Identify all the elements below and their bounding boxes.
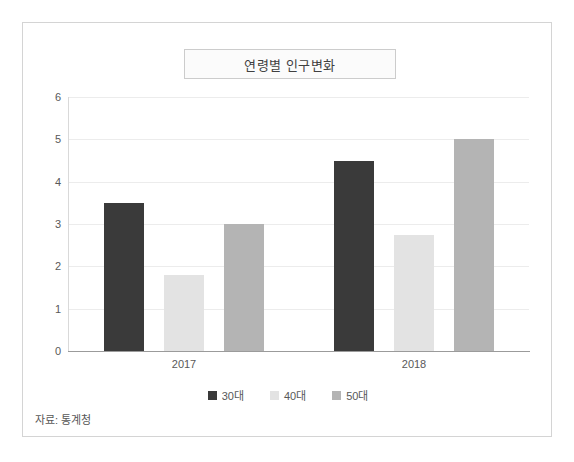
- y-axis-tick-label: 0: [31, 345, 61, 357]
- bar-40대-2018: [394, 235, 434, 351]
- bars-layer: [69, 97, 529, 351]
- y-axis-tick-label: 2: [31, 260, 61, 272]
- source-note: 자료: 통계청: [35, 411, 91, 427]
- x-axis-line: [68, 351, 530, 352]
- bar-40대-2017: [164, 275, 204, 351]
- legend-swatch-icon: [270, 391, 279, 400]
- y-axis-tick-label: 5: [31, 133, 61, 145]
- legend-item-50대: 50대: [332, 387, 368, 403]
- y-axis-tick-label: 6: [31, 91, 61, 103]
- page-title: 연령별 인구변화: [244, 55, 336, 74]
- y-axis-tick-label: 1: [31, 303, 61, 315]
- bar-30대-2018: [334, 161, 374, 352]
- y-axis-tick-label: 3: [31, 218, 61, 230]
- bar-50대-2018: [454, 139, 494, 351]
- chart-figure: 연령별 인구변화 0123456 20172018 30대40대50대 자료: …: [22, 22, 552, 437]
- legend-swatch-icon: [208, 391, 217, 400]
- legend-label: 40대: [284, 387, 306, 403]
- chart-legend: 30대40대50대: [23, 387, 553, 403]
- x-axis-category-label: 2017: [172, 358, 196, 370]
- bar-50대-2017: [224, 224, 264, 351]
- y-axis-tick-label: 4: [31, 176, 61, 188]
- legend-label: 50대: [346, 387, 368, 403]
- legend-label: 30대: [222, 387, 244, 403]
- legend-swatch-icon: [332, 391, 341, 400]
- chart-title-box: 연령별 인구변화: [184, 49, 396, 79]
- legend-item-30대: 30대: [208, 387, 244, 403]
- legend-item-40대: 40대: [270, 387, 306, 403]
- x-axis-category-label: 2018: [402, 358, 426, 370]
- bar-30대-2017: [104, 203, 144, 351]
